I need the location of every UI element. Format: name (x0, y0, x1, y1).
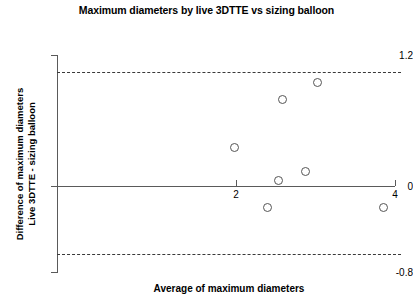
x-tick-mark-2 (395, 180, 396, 186)
y-axis-line (57, 55, 58, 273)
chart-root: Maximum diameters by live 3DTTE vs sizin… (0, 0, 413, 305)
y-axis-title: Difference of maximum diameters Live 3DT… (14, 54, 38, 274)
upper-limit-of-agreement-line (57, 72, 401, 73)
x-tick-mark-1 (236, 180, 237, 186)
x-axis-line (57, 186, 395, 187)
y-tick-mark-1 (51, 55, 57, 56)
y-tick-label-1: 1.2 (379, 50, 413, 61)
data-point (230, 143, 239, 152)
data-point (274, 176, 283, 185)
y-axis-title-line-2: Live 3DTTE - sizing balloon (26, 102, 37, 226)
x-tick-label-2: 4 (383, 189, 407, 200)
data-point (379, 203, 388, 212)
y-axis-title-line-1: Difference of maximum diameters (14, 88, 25, 241)
x-axis-title: Average of maximum diameters (57, 283, 401, 294)
data-point (278, 95, 287, 104)
x-tick-label-1: 2 (224, 189, 248, 200)
y-tick-mark-3 (51, 272, 57, 273)
lower-limit-of-agreement-line (57, 254, 401, 255)
data-point (263, 203, 272, 212)
data-point (301, 167, 310, 176)
y-tick-label-3: -0.8 (379, 267, 413, 278)
plot-area: 1.2 0 -0.8 2 4 Difference of maximum dia… (0, 0, 413, 305)
y-tick-mark-2 (51, 186, 57, 187)
data-point (313, 78, 322, 87)
